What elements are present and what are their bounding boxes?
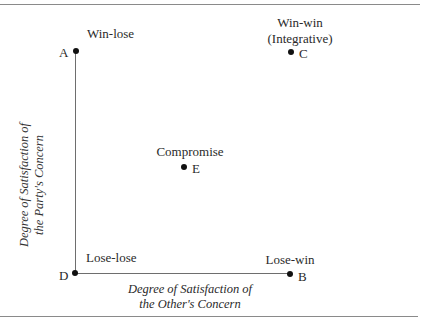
y-axis-line <box>75 51 76 274</box>
point-b-dot <box>287 271 293 277</box>
x-axis-label-line1: Degree of Satisfaction of <box>110 282 270 297</box>
bottom-rule <box>0 316 418 317</box>
point-d-dot <box>72 270 78 276</box>
point-e-dot <box>181 164 187 170</box>
x-axis-line <box>75 273 290 274</box>
point-c-label-line1: Win-win <box>255 15 345 30</box>
point-c-label-line2: (Integrative) <box>255 31 345 46</box>
point-c-dot <box>288 49 294 55</box>
point-a-label: Win-lose <box>87 26 134 41</box>
point-d-letter: D <box>59 269 68 282</box>
y-axis-label-line1: Degree of Satisfaction of <box>17 123 32 247</box>
point-d-label: Lose-lose <box>86 250 137 265</box>
y-axis-label-line2: the Party's Concern <box>32 123 47 247</box>
top-rule <box>0 4 420 5</box>
point-e-label: Compromise <box>145 144 235 159</box>
point-b-letter: B <box>298 270 307 283</box>
point-c-letter: C <box>299 47 308 60</box>
point-b-label: Lose-win <box>250 252 330 267</box>
x-axis-label-line2: the Other's Concern <box>110 297 270 312</box>
point-a-letter: A <box>59 46 68 59</box>
point-a-dot <box>73 48 79 54</box>
y-axis-label: Degree of Satisfaction of the Party's Co… <box>17 123 47 247</box>
point-e-letter: E <box>192 162 200 175</box>
